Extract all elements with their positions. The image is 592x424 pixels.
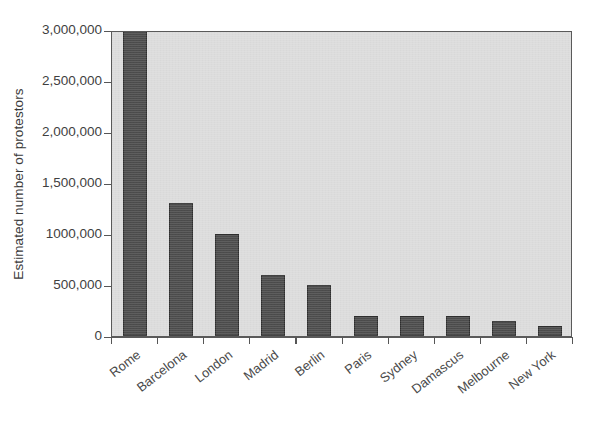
x-axis-tick-mark bbox=[572, 337, 573, 344]
bar-chart-figure: Estimated number of protestors 0500,0001… bbox=[0, 0, 592, 424]
x-axis-tick-mark bbox=[388, 337, 389, 344]
y-axis-tick-label: 2,000,000 bbox=[16, 124, 102, 139]
y-axis-tick-mark bbox=[104, 82, 111, 83]
x-axis-tick-mark bbox=[295, 337, 296, 344]
y-axis-tick-label: 500,000 bbox=[16, 277, 102, 292]
y-axis-tick-labels: 0500,0001000,0001,500,0002,000,0002,500,… bbox=[16, 0, 102, 424]
y-axis-tick-label: 0 bbox=[16, 328, 102, 343]
bar bbox=[400, 316, 424, 336]
bar bbox=[215, 234, 239, 336]
x-axis-tick-mark bbox=[480, 337, 481, 344]
bar bbox=[307, 285, 331, 336]
x-axis-tick-mark bbox=[157, 337, 158, 344]
y-axis-tick-mark bbox=[104, 337, 111, 338]
plot-area bbox=[111, 31, 572, 337]
bar bbox=[261, 275, 285, 336]
y-axis-tick-mark bbox=[104, 235, 111, 236]
y-axis-tick-label: 3,000,000 bbox=[16, 22, 102, 37]
x-axis-tick-mark bbox=[203, 337, 204, 344]
bar bbox=[492, 321, 516, 336]
y-axis-tick-label: 1000,000 bbox=[16, 226, 102, 241]
x-axis-tick-mark bbox=[342, 337, 343, 344]
bar bbox=[354, 316, 378, 336]
x-axis-tick-mark bbox=[526, 337, 527, 344]
bar bbox=[538, 326, 562, 336]
bar bbox=[446, 316, 470, 336]
bar bbox=[169, 203, 193, 336]
y-axis-tick-mark bbox=[104, 286, 111, 287]
bar bbox=[123, 31, 147, 336]
x-axis-tick-mark bbox=[434, 337, 435, 344]
x-axis-tick-mark bbox=[111, 337, 112, 344]
x-axis-tick-mark bbox=[249, 337, 250, 344]
y-axis-tick-label: 2,500,000 bbox=[16, 73, 102, 88]
y-axis-tick-mark bbox=[104, 31, 111, 32]
y-axis-tick-mark bbox=[104, 184, 111, 185]
y-axis-tick-label: 1,500,000 bbox=[16, 175, 102, 190]
y-axis-tick-mark bbox=[104, 133, 111, 134]
